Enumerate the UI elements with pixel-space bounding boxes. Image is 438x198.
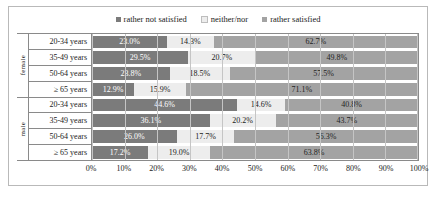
bar-segment: 20.2% bbox=[210, 114, 276, 127]
group-label: male bbox=[19, 122, 27, 136]
bar-segment: 49.8% bbox=[256, 51, 418, 64]
bar-segment: 57.5% bbox=[230, 67, 417, 80]
legend-label: rather not satisfied bbox=[124, 15, 187, 24]
category-label: ≥ 65 years bbox=[29, 81, 91, 97]
x-tick-label: 0% bbox=[86, 164, 97, 173]
category-label: 50-64 years bbox=[29, 128, 91, 144]
category-axis-column: 20-34 years35-49 years50-64 years≥ 65 ye… bbox=[28, 33, 92, 161]
bar-segment: 12.9% bbox=[92, 83, 134, 96]
legend-label: neither/nor bbox=[211, 15, 248, 24]
group-label-cell: female bbox=[17, 33, 28, 97]
x-tick-label: 60% bbox=[280, 164, 295, 173]
bar-row: 26.0%17.7%56.3% bbox=[92, 129, 418, 145]
bar-row: 44.6%14.6%40.8% bbox=[92, 97, 418, 113]
bar-segment: 23.8% bbox=[92, 67, 170, 80]
category-label: 35-49 years bbox=[29, 49, 91, 65]
x-tick-label: 40% bbox=[215, 164, 230, 173]
x-tick-label: 20% bbox=[149, 164, 164, 173]
bar-segment: 19.0% bbox=[148, 146, 210, 159]
bar-segment: 15.9% bbox=[134, 83, 186, 96]
chart-figure: rather not satisfiedneither/norrather sa… bbox=[8, 6, 428, 186]
bar-row: 29.5%20.7%49.8% bbox=[92, 50, 418, 66]
bar-segment: 17.7% bbox=[177, 130, 235, 143]
x-tick-label: 80% bbox=[346, 164, 361, 173]
bar-segment: 71.1% bbox=[186, 83, 418, 96]
x-axis-ticks: 0%10%20%30%40%50%60%70%80%90%100% bbox=[91, 161, 419, 177]
legend-entry: rather satisfied bbox=[262, 15, 320, 24]
x-axis-spacer bbox=[17, 161, 91, 177]
legend-entry: rather not satisfied bbox=[116, 15, 187, 24]
bar-segment: 43.7% bbox=[276, 114, 418, 127]
x-axis: 0%10%20%30%40%50%60%70%80%90%100% bbox=[17, 161, 419, 177]
x-tick-label: 30% bbox=[182, 164, 197, 173]
bars-column: 23.0%14.3%62.7%29.5%20.7%49.8%23.8%18.5%… bbox=[92, 33, 419, 161]
x-tick-label: 100% bbox=[410, 164, 429, 173]
legend-swatch-icon bbox=[262, 17, 267, 22]
bar-segment: 40.8% bbox=[285, 99, 418, 112]
bar-segment: 20.7% bbox=[188, 51, 255, 64]
chart-legend: rather not satisfiedneither/norrather sa… bbox=[9, 15, 427, 24]
category-label: 20-34 years bbox=[29, 33, 91, 49]
bar-row: 23.0%14.3%62.7% bbox=[92, 34, 418, 50]
group-label: female bbox=[19, 55, 27, 75]
legend-entry: neither/nor bbox=[201, 15, 248, 24]
category-label: 20-34 years bbox=[29, 97, 91, 113]
bar-segment: 56.3% bbox=[234, 130, 418, 143]
bar-row: 23.8%18.5%57.5% bbox=[92, 66, 418, 82]
legend-label: rather satisfied bbox=[270, 15, 320, 24]
category-label: 35-49 years bbox=[29, 112, 91, 128]
bar-segment: 23.0% bbox=[92, 36, 167, 49]
group-axis-column: femalemale bbox=[17, 33, 28, 161]
bar-segment: 18.5% bbox=[170, 67, 230, 80]
bar-segment: 17.2% bbox=[92, 146, 148, 159]
group-label-cell: male bbox=[17, 97, 28, 162]
x-tick-label: 50% bbox=[248, 164, 263, 173]
category-label: ≥ 65 years bbox=[29, 144, 91, 161]
bar-segment: 29.5% bbox=[92, 51, 188, 64]
bar-segment: 62.7% bbox=[214, 36, 418, 49]
x-tick-label: 90% bbox=[379, 164, 394, 173]
bar-segment: 26.0% bbox=[92, 130, 177, 143]
bar-segment: 14.3% bbox=[167, 36, 214, 49]
bar-segment: 63.8% bbox=[210, 146, 418, 159]
bar-segment: 36.1% bbox=[92, 114, 210, 127]
x-tick-label: 10% bbox=[116, 164, 131, 173]
x-tick-label: 70% bbox=[313, 164, 328, 173]
legend-swatch-icon bbox=[116, 17, 121, 22]
bar-row: 36.1%20.2%43.7% bbox=[92, 113, 418, 129]
chart-plot-area: femalemale 20-34 years35-49 years50-64 y… bbox=[17, 33, 419, 177]
category-label: 50-64 years bbox=[29, 65, 91, 81]
bar-row: 12.9%15.9%71.1% bbox=[92, 81, 418, 97]
bar-row: 17.2%19.0%63.8% bbox=[92, 144, 418, 160]
legend-swatch-icon bbox=[201, 16, 208, 23]
bar-segment: 44.6% bbox=[92, 99, 237, 112]
bar-segment: 14.6% bbox=[237, 99, 285, 112]
